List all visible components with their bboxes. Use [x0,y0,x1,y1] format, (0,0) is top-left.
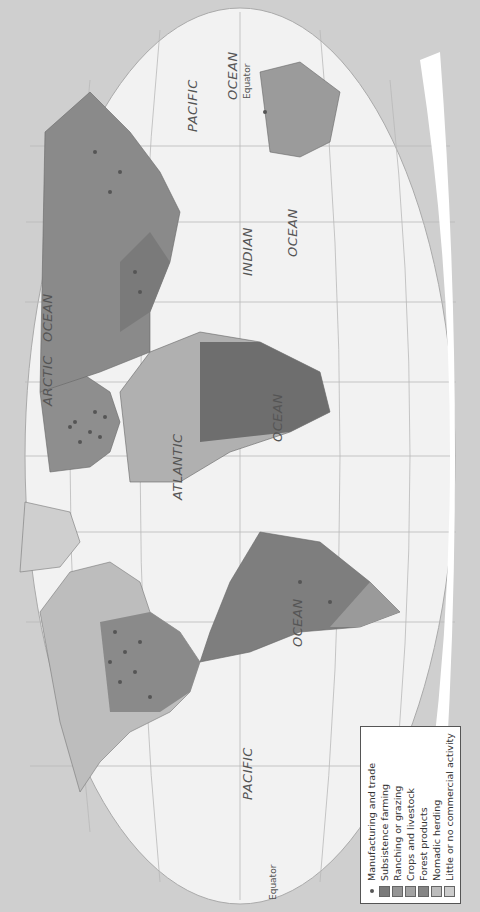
ocean-label: PACIFIC [240,747,255,800]
equator-label: Equator [242,64,252,99]
swatch-icon [444,886,455,897]
legend-item-nomadic: Nomadic herding [430,733,443,897]
swatch-icon [405,886,416,897]
legend-label: Crops and livestock [405,788,416,881]
legend-label: Manufacturing and trade [366,763,377,881]
legend-item-forest: Forest products [417,733,430,897]
ocean-label: OCEAN [225,51,240,100]
swatch-icon [379,886,390,897]
equator-label: Equator [268,865,278,900]
swatch-icon [392,886,403,897]
rotated-map-stage: PACIFIC OCEAN ATLANTIC OCEAN ARCTIC OCEA… [0,0,480,912]
legend-label: Nomadic herding [431,800,442,881]
ocean-label: ATLANTIC [170,433,185,500]
ocean-label: OCEAN [40,293,55,342]
map-legend: Manufacturing and trade Subsistence farm… [360,726,461,904]
legend-item-little: Little or no commercial activity [443,733,456,897]
legend-item-manufacturing: Manufacturing and trade [365,733,378,897]
ocean-label: ARCTIC [40,355,55,406]
ocean-label: OCEAN [270,393,285,442]
ocean-label: OCEAN [290,598,305,647]
legend-label: Forest products [418,807,429,881]
ocean-label: OCEAN [285,208,300,257]
legend-item-subsistence: Subsistence farming [378,733,391,897]
legend-item-crops: Crops and livestock [404,733,417,897]
dot-icon [370,886,374,897]
ocean-label: INDIAN [240,227,255,276]
ocean-label: PACIFIC [185,79,200,132]
swatch-icon [431,886,442,897]
legend-label: Little or no commercial activity [444,733,455,881]
legend-label: Ranching or grazing [392,786,403,881]
legend-label: Subsistence farming [379,784,390,881]
swatch-icon [418,886,429,897]
legend-item-ranching: Ranching or grazing [391,733,404,897]
